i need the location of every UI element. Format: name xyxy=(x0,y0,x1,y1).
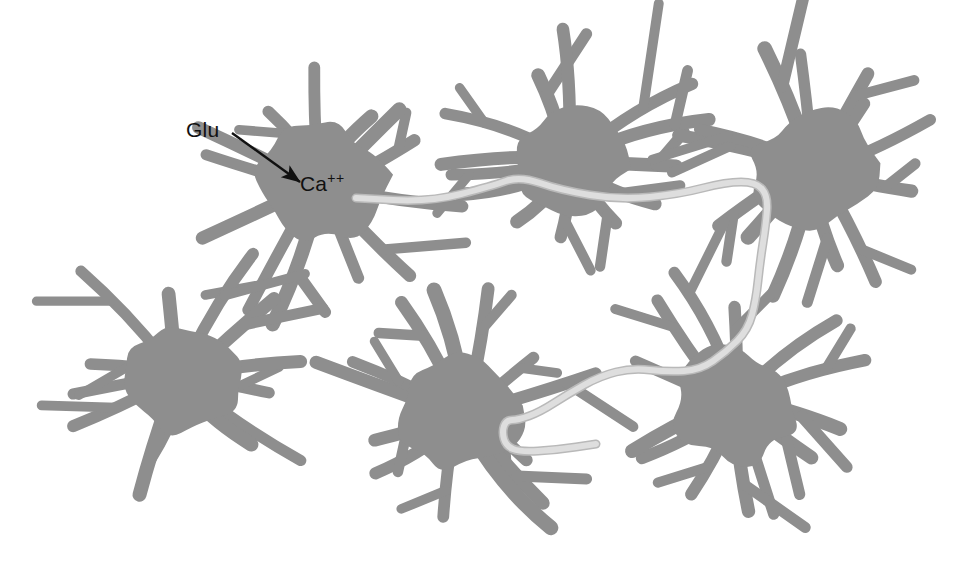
glu-label: Glu xyxy=(186,118,219,142)
astrocyte-process-branch xyxy=(379,328,423,340)
calcium-charge-superscript: ++ xyxy=(327,170,344,186)
astrocyte-network-drawing xyxy=(0,0,966,586)
astrocyte-network-figure: Glu Ca++ xyxy=(0,0,966,586)
calcium-label-text: Ca xyxy=(300,172,327,195)
calcium-label: Ca++ xyxy=(300,170,345,196)
glu-label-text: Glu xyxy=(186,118,219,141)
